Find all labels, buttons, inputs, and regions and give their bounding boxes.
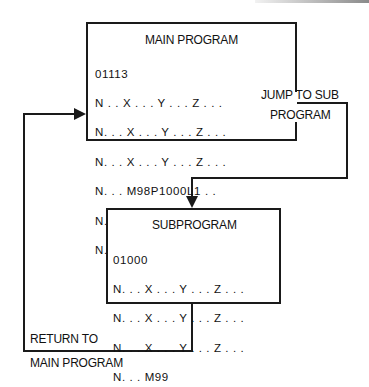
code-line: 01000 bbox=[113, 256, 244, 266]
main-program-title: MAIN PROGRAM bbox=[145, 33, 238, 47]
return-label-line1: RETURN TO bbox=[30, 332, 98, 346]
code-line: 01113 bbox=[95, 70, 226, 80]
code-line: N. . . X . . . Y . . . Z . . . bbox=[95, 158, 226, 168]
code-line: N. . . M98P1000L1 . . bbox=[95, 187, 226, 197]
jump-label-line2: PROGRAM bbox=[270, 108, 331, 122]
code-line: N. . . X . . . Y . . . Z . . . bbox=[113, 285, 244, 295]
subprogram-title: SUBPROGRAM bbox=[152, 218, 237, 232]
code-line: N. . . X . . . Y . . . Z . . . bbox=[113, 344, 244, 354]
jump-label-line1: JUMP TO SUB bbox=[261, 88, 339, 102]
code-line: N. . . X . . . Y . . . Z . . . bbox=[95, 128, 226, 138]
code-line: N. . . M99 bbox=[113, 373, 244, 383]
code-line: N . . X . . . Y . . . Z . . . bbox=[95, 99, 226, 109]
subprogram-code: 01000 N. . . X . . . Y . . . Z . . . N. … bbox=[113, 236, 244, 387]
return-label-line2: MAIN PROGRAM bbox=[30, 356, 123, 370]
code-line: N. . . X . . . Y . . . Z . . . bbox=[113, 314, 244, 324]
